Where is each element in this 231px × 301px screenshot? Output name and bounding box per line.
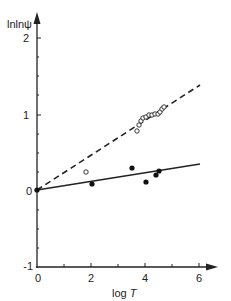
dashed-fit-line <box>37 85 200 190</box>
y-axis-title: lnlnψ <box>7 18 32 30</box>
x-axis-arrow-icon <box>206 264 218 271</box>
y-tick-label: 2 <box>23 32 29 44</box>
filled-circle-series <box>34 165 161 192</box>
x-tick-label: 0 <box>35 272 41 284</box>
y-tick-label: 0 <box>26 185 32 197</box>
y-axis-arrow-icon <box>34 12 41 24</box>
open-circle-series <box>84 105 166 174</box>
chart: 2 1 0 -1 0 2 4 6 lnlnψ log T <box>0 0 231 301</box>
y-tick-label: -1 <box>23 260 33 272</box>
y-tick-label: 1 <box>23 109 29 121</box>
x-tick-label: 2 <box>88 272 94 284</box>
x-tick-label: 4 <box>142 272 148 284</box>
x-axis-title: log T <box>112 287 138 299</box>
x-axis-title-var: T <box>130 287 138 299</box>
x-axis-title-prefix: log <box>112 287 130 299</box>
solid-fit-line <box>37 164 200 190</box>
x-tick-label: 6 <box>196 272 202 284</box>
